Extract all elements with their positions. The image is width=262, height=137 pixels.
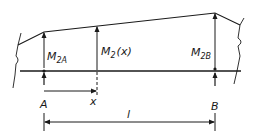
label-dim-l: l [127, 108, 130, 121]
label-m2x: M2(x) [101, 45, 132, 60]
node-a [42, 69, 45, 72]
label-point-a: A [39, 98, 48, 111]
moment-outline [18, 13, 240, 45]
label-dim-x: x [89, 95, 97, 108]
right-break-line [234, 18, 244, 84]
moment-diagram: M2A M2(x) M2B A B x l [0, 0, 262, 137]
label-point-b: B [211, 100, 219, 113]
node-b [213, 67, 216, 70]
left-break-line [13, 33, 21, 88]
label-m2b: M2B [191, 46, 211, 61]
label-m2a: M2A [47, 50, 67, 65]
